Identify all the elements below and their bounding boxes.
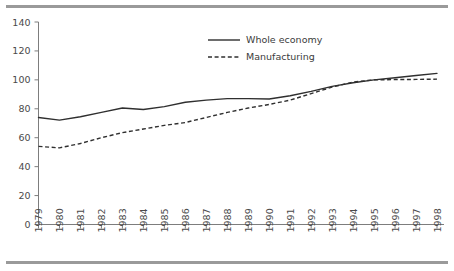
x-tick-label: 1987	[201, 208, 212, 232]
x-tick-label: 1983	[117, 208, 128, 232]
x-tick-label: 1989	[243, 208, 254, 232]
y-tick-label: 120	[12, 45, 30, 56]
y-tick-label: 60	[18, 132, 30, 143]
x-tick-label: 1992	[306, 208, 317, 232]
data-series-group	[39, 73, 438, 147]
x-tick-label: 1981	[75, 208, 86, 232]
x-tick-label: 1984	[138, 208, 149, 232]
chart-legend: Whole economy Manufacturing	[208, 34, 323, 62]
x-tick-label: 1991	[285, 208, 296, 232]
x-tick-label: 1993	[327, 208, 338, 232]
top-divider-rule	[6, 5, 448, 8]
line-chart: 020406080100120140 197919801981198219831…	[0, 12, 454, 260]
x-tick-label: 1995	[369, 208, 380, 232]
legend-label-whole-economy: Whole economy	[246, 34, 323, 45]
x-tick-label: 1996	[390, 208, 401, 232]
y-tick-label: 20	[18, 190, 30, 201]
y-tick-label: 40	[18, 161, 30, 172]
legend-label-manufacturing: Manufacturing	[246, 51, 315, 62]
y-tick-group: 020406080100120140	[12, 17, 38, 231]
y-tick-label: 140	[12, 17, 30, 28]
x-tick-label: 1994	[348, 208, 359, 232]
x-tick-label: 1986	[180, 208, 191, 232]
bottom-divider-rule	[6, 261, 448, 264]
y-tick-label: 80	[18, 103, 30, 114]
figure-container: 020406080100120140 197919801981198219831…	[0, 0, 454, 271]
x-tick-group: 1979198019811982198319841985198619871988…	[33, 208, 443, 232]
y-tick-label: 0	[24, 219, 30, 230]
x-tick-label: 1988	[222, 208, 233, 232]
x-tick-label: 1997	[411, 208, 422, 232]
x-axis: 1979198019811982198319841985198619871988…	[33, 208, 444, 232]
x-tick-label: 1979	[33, 208, 44, 232]
x-tick-label: 1990	[264, 208, 275, 232]
x-tick-label: 1985	[159, 208, 170, 232]
chart-plot-area: 020406080100120140 197919801981198219831…	[0, 12, 454, 260]
y-axis: 020406080100120140	[12, 17, 38, 231]
x-tick-label: 1998	[432, 208, 443, 232]
x-tick-label: 1980	[54, 208, 65, 232]
x-tick-label: 1982	[96, 208, 107, 232]
y-tick-label: 100	[12, 74, 30, 85]
